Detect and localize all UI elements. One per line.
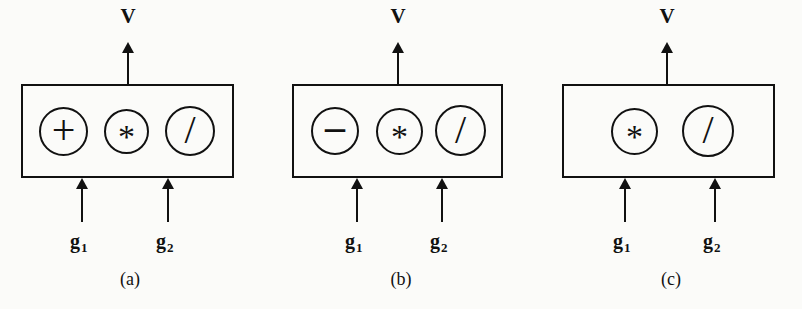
input-arrow-g2-a — [161, 178, 175, 222]
operator-circle-star[interactable]: * — [104, 109, 149, 154]
output-arrow-a — [121, 42, 135, 86]
input-arrow-g2-c — [708, 178, 722, 222]
input-label-g2-a: g2 — [156, 231, 173, 251]
input-sub-g1: 1 — [81, 240, 88, 255]
arrow-shaft — [666, 50, 668, 86]
input-sub-g1: 1 — [356, 240, 363, 255]
slash-icon: / — [684, 106, 732, 154]
input-base-g1: g — [70, 230, 80, 252]
input-label-g1-a: g1 — [70, 231, 87, 251]
input-label-g2-c: g2 — [703, 231, 720, 251]
panel-caption-c: (c) — [641, 270, 701, 288]
operator-circle-plus[interactable]: + — [39, 107, 88, 156]
input-label-g2-b: g2 — [430, 231, 447, 251]
star-icon: * — [613, 115, 656, 158]
star-icon: * — [106, 116, 147, 157]
slash-icon: / — [167, 107, 213, 153]
figure-canvas: V + * / g1 g2 — [0, 0, 802, 309]
arrow-shaft — [356, 186, 358, 222]
output-label-v-b: V — [383, 6, 413, 27]
operator-box-c[interactable]: * / — [562, 84, 775, 178]
input-base-g2: g — [703, 230, 713, 252]
output-arrow-b — [391, 42, 405, 86]
input-sub-g2: 2 — [167, 240, 174, 255]
input-arrow-g1-a — [75, 178, 89, 222]
operator-circle-star[interactable]: * — [376, 108, 423, 155]
arrow-shaft — [127, 50, 129, 86]
arrow-shaft — [714, 186, 716, 222]
operator-circle-slash[interactable]: / — [165, 106, 215, 156]
operator-circle-slash[interactable]: / — [682, 105, 734, 157]
panel-caption-b: (b) — [371, 270, 431, 288]
operator-circle-star[interactable]: * — [611, 108, 658, 155]
input-sub-g1: 1 — [624, 240, 631, 255]
input-label-g1-b: g1 — [345, 231, 362, 251]
input-base-g2: g — [430, 230, 440, 252]
operator-box-a[interactable]: + * / — [21, 84, 234, 178]
panel-caption-a: (a) — [100, 270, 160, 288]
input-sub-g2: 2 — [714, 240, 721, 255]
input-sub-g2: 2 — [441, 240, 448, 255]
star-icon: * — [378, 115, 421, 158]
input-arrow-g1-c — [618, 178, 632, 222]
arrow-shaft — [81, 186, 83, 222]
input-base-g1: g — [345, 230, 355, 252]
output-arrow-c — [660, 42, 674, 86]
output-label-v-c: V — [652, 6, 682, 27]
input-arrow-g1-b — [350, 178, 364, 222]
minus-icon: – — [313, 105, 357, 149]
arrow-shaft — [624, 186, 626, 222]
arrow-shaft — [441, 186, 443, 222]
input-base-g2: g — [156, 230, 166, 252]
input-label-g1-c: g1 — [613, 231, 630, 251]
plus-icon: + — [41, 107, 86, 152]
input-arrow-g2-b — [435, 178, 449, 222]
input-base-g1: g — [613, 230, 623, 252]
operator-box-b[interactable]: – * / — [292, 84, 503, 178]
arrow-shaft — [397, 50, 399, 86]
operator-circle-minus[interactable]: – — [311, 107, 359, 155]
output-label-v-a: V — [113, 6, 143, 27]
slash-icon: / — [437, 106, 484, 153]
operator-circle-slash[interactable]: / — [435, 105, 486, 156]
arrow-shaft — [167, 186, 169, 222]
